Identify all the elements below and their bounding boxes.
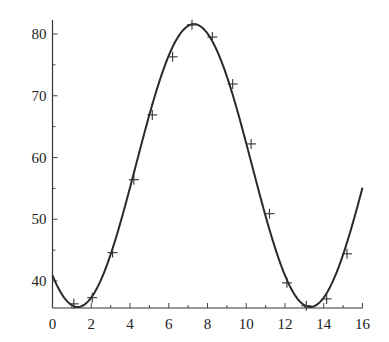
data-point-plus-marker [322, 294, 332, 304]
x-tick-label: 12 [278, 316, 293, 332]
x-tick-label: 14 [316, 316, 332, 332]
axes [53, 20, 363, 308]
y-tick-label: 80 [32, 26, 47, 42]
chart: 0246810121416 4050607080 [0, 0, 389, 342]
x-tick-label: 16 [355, 316, 371, 332]
data-point-plus-marker [187, 20, 197, 30]
data-point-plus-marker [301, 301, 311, 311]
x-tick-label: 4 [126, 316, 134, 332]
x-tick-labels: 0246810121416 [49, 316, 371, 332]
y-tick-label: 40 [32, 273, 47, 289]
x-tick-label: 0 [49, 316, 57, 332]
data-point-markers [69, 20, 352, 311]
x-tick-label: 2 [88, 316, 96, 332]
y-tick-label: 70 [32, 88, 47, 104]
x-tick-label: 10 [239, 316, 254, 332]
fitted-curve [53, 24, 363, 307]
x-tick-label: 6 [165, 316, 173, 332]
y-tick-labels: 4050607080 [32, 26, 47, 289]
y-tick-label: 50 [32, 211, 47, 227]
y-tick-label: 60 [32, 150, 47, 166]
data-point-plus-marker [207, 32, 217, 42]
x-tick-label: 8 [204, 316, 212, 332]
tick-marks [53, 34, 363, 308]
